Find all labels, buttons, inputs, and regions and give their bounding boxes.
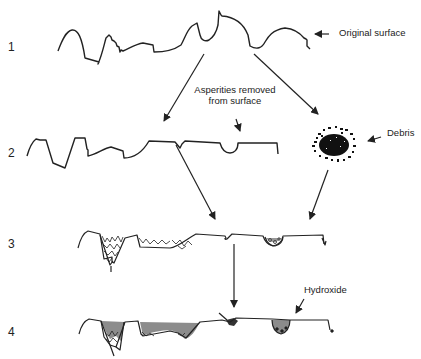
stage-number-3: 3 <box>8 237 15 251</box>
stage-3-debris-fill <box>102 236 280 262</box>
arrow-stage2-to-stage3 <box>176 145 215 219</box>
stage-number-1: 1 <box>8 40 15 54</box>
hydroxide-label: Hydroxide <box>304 284 347 295</box>
flow-arrows <box>164 34 381 313</box>
stage-2-surface-profile <box>27 138 278 168</box>
asperities-label-line1: Asperities removed <box>190 84 280 95</box>
debris-label: Debris <box>387 127 414 138</box>
diagram-graphics <box>0 0 421 359</box>
arrow-asperities-pointer <box>236 119 240 131</box>
asperities-label-line2: from surface <box>190 95 280 106</box>
stage-3-surface-profile <box>78 231 326 272</box>
stage-number-4: 4 <box>8 325 15 339</box>
debris-cluster <box>312 126 356 162</box>
stage-number-2: 2 <box>8 146 15 160</box>
stage-4-debris-fill <box>105 327 333 342</box>
arrow-debris-pointer <box>368 137 381 141</box>
stage-1-surface-profile <box>58 11 310 64</box>
arrow-debris-to-stage3 <box>310 170 328 219</box>
arrow-hydroxide-pointer <box>296 299 304 313</box>
original-surface-label: Original surface <box>339 27 406 38</box>
wear-process-diagram: 1 2 3 4 Original surface Asperities remo… <box>0 0 421 359</box>
